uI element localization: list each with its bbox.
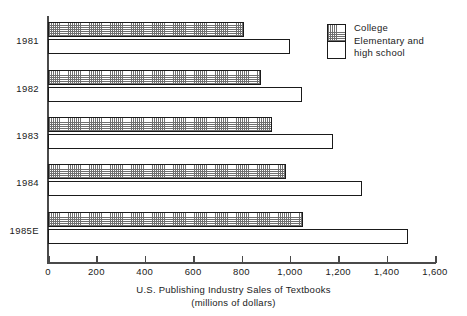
x-tick-label-1200: 1,200 — [326, 266, 351, 277]
x-tick-label-0: 0 — [45, 266, 51, 277]
legend-swatch-college — [327, 24, 346, 42]
x-tick-label-600: 600 — [185, 266, 202, 277]
x-tick-1000 — [290, 256, 292, 263]
bar-chart: 02004006008001,0001,2001,4001,600 198119… — [0, 0, 467, 316]
x-tick-200 — [96, 256, 98, 263]
x-tick-400 — [145, 256, 147, 263]
category-label-1983: 1983 — [16, 130, 39, 141]
bar-college-1984 — [48, 164, 286, 179]
bar-college-1982 — [48, 70, 261, 85]
bar-school-1982 — [48, 87, 302, 102]
legend-label-college: College — [354, 22, 424, 35]
x-tick-label-1000: 1,000 — [277, 266, 302, 277]
x-tick-800 — [242, 256, 244, 263]
bar-college-1981 — [48, 22, 244, 37]
bar-school-1981 — [48, 39, 290, 54]
bar-college-1983 — [48, 117, 272, 132]
x-tick-label-1600: 1,600 — [422, 266, 447, 277]
category-label-1984: 1984 — [16, 177, 39, 188]
category-label-1982: 1982 — [16, 83, 39, 94]
x-tick-label-800: 800 — [233, 266, 250, 277]
bar-school-1985E — [48, 229, 408, 244]
x-axis-title-line1: U.S. Publishing Industry Sales of Textbo… — [0, 284, 467, 297]
legend-swatch-school — [327, 41, 346, 59]
legend-labels: College Elementary and high school — [354, 22, 424, 60]
bar-school-1984 — [48, 181, 362, 196]
category-label-1981: 1981 — [16, 35, 39, 46]
x-tick-label-200: 200 — [88, 266, 105, 277]
x-axis-title-line2: (millions of dollars) — [0, 297, 467, 310]
legend-swatches — [327, 24, 346, 60]
x-axis-title: U.S. Publishing Industry Sales of Textbo… — [0, 284, 467, 309]
x-tick-0 — [48, 256, 50, 263]
legend-label-school-line2: high school — [354, 47, 424, 60]
bar-school-1983 — [48, 134, 333, 149]
category-label-1985E: 1985E — [10, 225, 39, 236]
x-tick-600 — [193, 256, 195, 263]
x-tick-1400 — [387, 256, 389, 263]
x-tick-label-1400: 1,400 — [374, 266, 399, 277]
x-tick-label-400: 400 — [136, 266, 153, 277]
bar-college-1985E — [48, 212, 303, 227]
x-tick-1200 — [338, 256, 340, 263]
x-tick-1600 — [435, 256, 437, 263]
legend-label-school-line1: Elementary and — [354, 35, 424, 48]
